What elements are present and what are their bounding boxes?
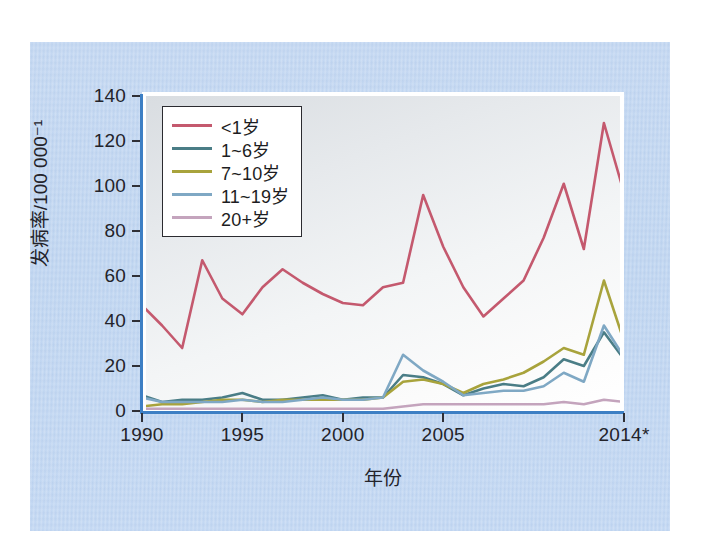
y-tick-label: 0 <box>115 400 126 422</box>
legend-color-swatch <box>172 147 212 150</box>
legend-item[interactable]: <1岁 <box>172 114 289 137</box>
x-tick <box>342 413 344 422</box>
y-tick-label: 120 <box>94 130 126 152</box>
x-tick <box>241 413 243 422</box>
y-tick-label: 100 <box>94 175 126 197</box>
y-tick <box>132 95 140 97</box>
y-tick-label: 140 <box>94 85 126 107</box>
x-tick-label: 1990 <box>120 424 163 446</box>
x-axis-line <box>140 411 624 414</box>
y-tick <box>132 230 140 232</box>
series-line <box>146 326 620 403</box>
legend-color-swatch <box>172 170 212 173</box>
y-tick-label: 80 <box>104 220 126 242</box>
y-tick-label: 20 <box>104 355 126 377</box>
y-tick <box>132 320 140 322</box>
y-tick <box>132 185 140 187</box>
legend-color-swatch <box>172 124 212 127</box>
legend-item[interactable]: 11~19岁 <box>172 183 289 206</box>
y-tick-label: 40 <box>104 310 126 332</box>
legend-label: 20+岁 <box>221 205 270 231</box>
legend-color-swatch <box>172 216 212 219</box>
x-tick-label: 2014* <box>598 424 649 446</box>
x-tick-label: 2000 <box>321 424 364 446</box>
x-tick <box>623 413 625 422</box>
y-tick-label: 60 <box>104 265 126 287</box>
x-tick <box>442 413 444 422</box>
x-tick <box>141 413 143 422</box>
y-axis-line <box>140 94 143 414</box>
legend: <1岁1~6岁7~10岁11~19岁20+岁 <box>162 106 302 237</box>
y-tick <box>132 410 140 412</box>
y-tick <box>132 275 140 277</box>
figure-root: 020406080100120140 19901995200020052014*… <box>0 0 701 555</box>
legend-item[interactable]: 20+岁 <box>172 206 289 229</box>
y-tick <box>132 140 140 142</box>
x-tick-label: 2005 <box>422 424 465 446</box>
series-line <box>146 281 620 407</box>
legend-item[interactable]: 7~10岁 <box>172 160 289 183</box>
y-tick <box>132 365 140 367</box>
series-line <box>146 332 620 402</box>
x-axis-title: 年份 <box>364 463 402 490</box>
legend-item[interactable]: 1~6岁 <box>172 137 289 160</box>
legend-color-swatch <box>172 193 212 196</box>
x-tick-label: 1995 <box>221 424 264 446</box>
y-axis-title: 发病率/100 000⁻¹ <box>25 114 52 274</box>
